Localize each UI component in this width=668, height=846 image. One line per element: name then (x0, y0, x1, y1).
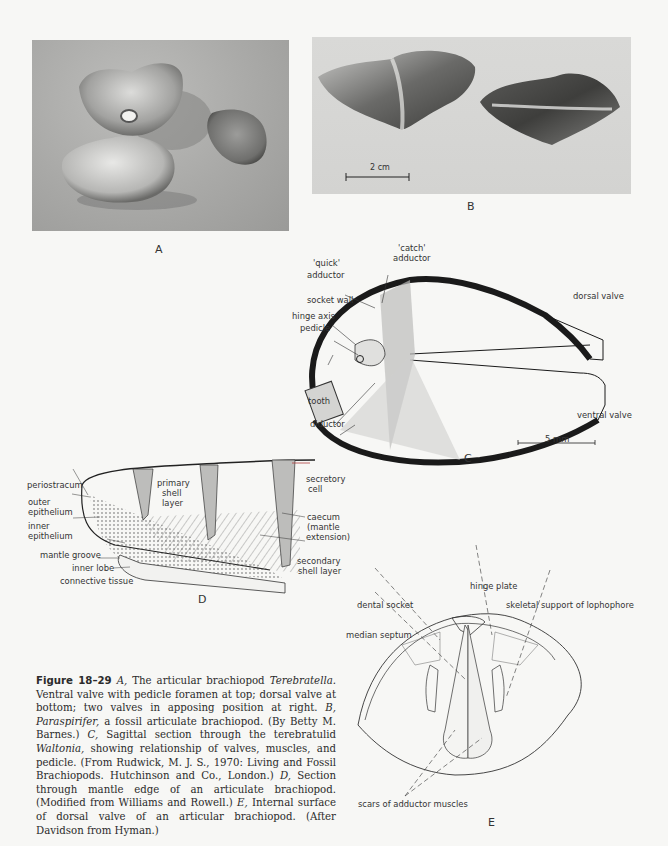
label-dental-socket: dental socket (357, 600, 413, 610)
label-dorsal-valve: dorsal valve (573, 291, 624, 301)
label-secretory-1: secretory (306, 474, 345, 484)
label-pedicle: pedicle (300, 323, 330, 333)
panel-label-d: D (198, 593, 206, 606)
label-inner-epithelium-2: epithelium (28, 531, 73, 541)
terebratella-valves-illustration (32, 40, 289, 231)
label-inner-epithelium-1: inner (28, 521, 50, 531)
caption-e-marker: E, (237, 797, 252, 808)
panel-label-b: B (467, 200, 475, 213)
label-adductor-scars: scars of adductor muscles (358, 799, 468, 809)
label-connective-tissue: connective tissue (60, 576, 133, 586)
panel-label-e: E (488, 816, 495, 829)
label-secondary-2: shell layer (298, 566, 341, 576)
sagittal-section-diagram (300, 255, 668, 470)
label-median-septum: median septum (346, 630, 412, 640)
figure-number: Figure 18–29 (36, 675, 112, 686)
figure-caption: Figure 18–29 A, The articular brachiopod… (36, 674, 336, 837)
caption-a-marker: A, (112, 675, 133, 686)
label-caecum-2: (mantle (307, 522, 340, 532)
label-inner-lobe: inner lobe (72, 563, 114, 573)
scale-bar-label-2cm: 2 cm (370, 163, 390, 173)
panel-label-c: C (464, 452, 472, 465)
label-mantle-groove: mantle groove (40, 550, 101, 560)
label-quick-2: adductor (307, 270, 345, 280)
label-periostracum: periostracum (27, 480, 83, 490)
photo-terebratella (32, 40, 289, 231)
caption-text: Sagittal section through the terebratuli… (106, 729, 336, 740)
caption-text: The articular brachiopod (132, 675, 269, 686)
caption-genus: Waltonia, (36, 743, 84, 754)
panel-label-a: A (155, 243, 163, 256)
label-caecum-1: caecum (307, 512, 340, 522)
caption-text: Ventral valve with pedicle foramen at to… (36, 689, 336, 714)
label-catch-2: adductor (393, 253, 431, 263)
label-outer-epithelium-2: epithelium (28, 507, 73, 517)
label-primary-3: layer (162, 498, 183, 508)
label-socket-wall: socket wall (307, 295, 353, 305)
label-secretory-2: cell (308, 484, 322, 494)
caption-c-marker: C, (88, 729, 107, 740)
label-skeletal-support: skeletal support of lophophore (506, 600, 634, 610)
label-primary-2: shell (162, 488, 181, 498)
label-secondary-1: secondary (297, 556, 340, 566)
label-diductor: diductor (310, 419, 345, 429)
label-hinge-axis: hinge axis (292, 311, 335, 321)
label-hinge-plate: hinge plate (470, 581, 517, 591)
paraspirifer-fossils-illustration (312, 37, 631, 194)
caption-d-marker: D, (280, 770, 297, 781)
label-tooth: tooth (308, 396, 330, 406)
caption-genus: Terebratella. (270, 675, 336, 686)
label-primary-1: primary (157, 478, 190, 488)
caption-genus: Paraspirifer, (36, 716, 99, 727)
label-catch-1: 'catch' (398, 243, 426, 253)
label-ventral-valve: ventral valve (577, 410, 632, 420)
label-quick-1: 'quick' (313, 258, 340, 268)
scale-bar-label-5mm: 5 mm (545, 434, 569, 444)
photo-paraspirifer: 2 cm (312, 37, 631, 194)
caption-b-marker: B, (325, 702, 336, 713)
label-outer-epithelium-1: outer (28, 497, 50, 507)
